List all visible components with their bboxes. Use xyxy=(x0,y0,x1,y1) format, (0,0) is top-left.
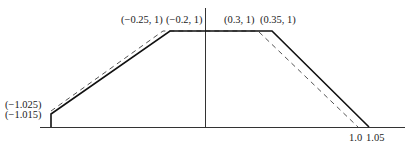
label-top-left-dashed: (−0.25, 1) xyxy=(121,14,163,26)
label-right-solid-end: 1.05 xyxy=(366,132,384,143)
trapezoid-diagram: (−0.25, 1) (−0.2, 1) (0.3, 1) (0.35, 1) … xyxy=(0,0,410,148)
label-top-right-dashed: (0.3, 1) xyxy=(224,14,255,26)
solid-trapezoid xyxy=(51,31,369,127)
label-top-left-solid: (−0.2, 1) xyxy=(166,14,203,26)
dashed-trapezoid xyxy=(51,31,358,127)
label-right-dashed-end: 1.0 xyxy=(349,132,362,143)
label-top-right-solid: (0.35, 1) xyxy=(260,14,296,26)
label-left-solid-start: (−1.015) xyxy=(5,109,42,121)
